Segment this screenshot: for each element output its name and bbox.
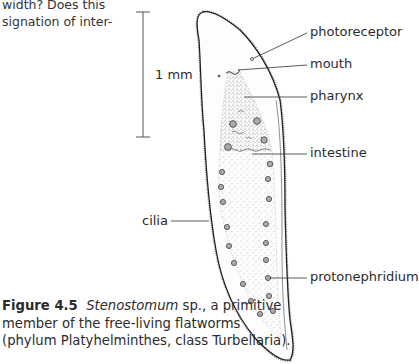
scale-bar	[136, 12, 150, 137]
label-pharynx: pharynx	[310, 89, 363, 103]
genus-name: Stenostomum	[86, 298, 178, 313]
scale-bar-label: 1 mm	[155, 68, 193, 82]
leader-photoreceptor	[254, 33, 307, 58]
figure-number: Figure 4.5	[2, 298, 78, 313]
caption-line-3: (phylum Platyhelminthes, class Turbellar…	[2, 332, 290, 350]
label-mouth: mouth	[310, 57, 352, 71]
photoreceptor-dot	[218, 75, 221, 78]
caption-line-2: member of the free-living flatworms	[2, 315, 290, 333]
label-intestine: intestine	[310, 146, 367, 160]
caption-line-1-rest: sp., a primitive	[178, 298, 281, 313]
label-protonephridium: protonephridium	[310, 270, 419, 284]
caption-line-1: Figure 4.5 Stenostomum sp., a primitive	[2, 297, 290, 315]
label-cilia: cilia	[142, 214, 168, 228]
label-photoreceptor: photoreceptor	[310, 25, 402, 39]
figure-caption: Figure 4.5 Stenostomum sp., a primitive …	[2, 297, 290, 350]
